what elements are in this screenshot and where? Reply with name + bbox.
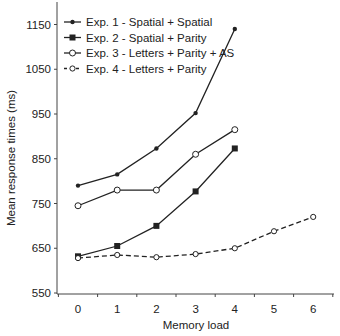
- point-marker: [232, 246, 237, 251]
- x-axis-ticks: 0123456: [58, 294, 332, 315]
- point-marker: [70, 50, 76, 56]
- y-tick-label: 550: [32, 287, 51, 299]
- y-tick-label: 950: [32, 108, 51, 120]
- x-tick-label: 5: [271, 303, 277, 315]
- point-marker: [153, 187, 159, 193]
- x-tick-label: 4: [232, 303, 239, 315]
- x-tick-label: 6: [310, 303, 316, 315]
- point-marker: [193, 188, 199, 194]
- point-marker: [233, 27, 237, 31]
- series-4: [75, 214, 315, 260]
- point-marker: [193, 151, 199, 157]
- y-axis-label: Mean response times (ms): [5, 90, 17, 226]
- line-chart: 55065075085095010501150 0123456 Mean res…: [0, 0, 340, 336]
- point-marker: [232, 145, 238, 151]
- point-marker: [153, 223, 159, 229]
- series-line: [78, 130, 235, 206]
- legend-item-4: Exp. 4 - Letters + Parity: [64, 63, 207, 75]
- y-tick-label: 850: [32, 153, 51, 165]
- point-marker: [193, 251, 198, 256]
- point-marker: [311, 214, 316, 219]
- legend-label: Exp. 2 - Spatial + Parity: [86, 32, 207, 44]
- point-marker: [75, 203, 81, 209]
- legend-label: Exp. 4 - Letters + Parity: [86, 63, 207, 75]
- axes: [57, 2, 334, 294]
- point-marker: [70, 20, 74, 24]
- point-marker: [232, 127, 238, 133]
- x-tick-label: 1: [114, 303, 120, 315]
- y-tick-label: 1050: [25, 63, 51, 75]
- y-tick-label: 1150: [26, 19, 51, 31]
- point-marker: [115, 252, 120, 257]
- legend-item-3: Exp. 3 - Letters + Parity + AS: [64, 47, 235, 59]
- x-tick-label: 0: [75, 303, 81, 315]
- point-marker: [115, 172, 119, 176]
- legend-label: Exp. 3 - Letters + Parity + AS: [86, 47, 235, 59]
- legend-item-2: Exp. 2 - Spatial + Parity: [64, 32, 207, 44]
- x-axis-label: Memory load: [163, 319, 229, 331]
- point-marker: [154, 146, 158, 150]
- series-2: [75, 145, 238, 259]
- y-axis-ticks: 55065075085095010501150: [25, 19, 57, 300]
- legend-label: Exp. 1 - Spatial + Spatial: [86, 16, 212, 28]
- series-line: [78, 148, 235, 256]
- legend: Exp. 1 - Spatial + SpatialExp. 2 - Spati…: [64, 16, 235, 75]
- point-marker: [271, 229, 276, 234]
- point-marker: [76, 183, 80, 187]
- point-marker: [154, 255, 159, 260]
- point-marker: [70, 35, 76, 41]
- point-marker: [114, 243, 120, 249]
- series-3: [75, 127, 238, 209]
- legend-item-1: Exp. 1 - Spatial + Spatial: [64, 16, 212, 28]
- x-tick-label: 2: [153, 303, 159, 315]
- point-marker: [75, 255, 80, 260]
- point-marker: [70, 66, 75, 71]
- point-marker: [193, 111, 197, 115]
- x-tick-label: 3: [192, 303, 198, 315]
- y-tick-label: 650: [32, 242, 51, 254]
- y-tick-label: 750: [32, 198, 51, 210]
- point-marker: [114, 187, 120, 193]
